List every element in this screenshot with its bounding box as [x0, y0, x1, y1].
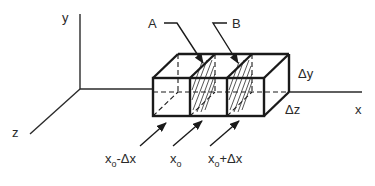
- plane-a-leader: [164, 23, 203, 63]
- label-x0-plus-dx: xo+Δx: [208, 151, 243, 169]
- hidden-edges: [153, 54, 289, 116]
- label-x0: xo: [170, 151, 182, 169]
- position-arrows: [140, 121, 239, 146]
- y-axis-label: y: [62, 10, 69, 25]
- plane-b-label: B: [232, 16, 241, 31]
- label-x0-minus-dx: xo-Δx: [105, 151, 137, 169]
- plane-a-label: A: [148, 16, 157, 31]
- delta-z-label: Δz: [285, 102, 300, 117]
- control-volume-diagram: y x z: [0, 0, 375, 186]
- z-axis-label: z: [12, 125, 19, 140]
- z-axis: [30, 89, 80, 134]
- delta-y-label: Δy: [298, 66, 314, 81]
- top-right-edge: [264, 54, 289, 78]
- arrow-x0-plus: [210, 121, 239, 146]
- plane-b-hatching: [229, 60, 252, 112]
- plane-labels: A B: [148, 16, 241, 63]
- position-labels: xo-Δx xo xo+Δx: [105, 151, 243, 169]
- plane-a-hatching: [192, 60, 215, 112]
- arrow-x0: [173, 121, 202, 146]
- control-volume-box: [153, 54, 289, 116]
- arrow-x0-minus: [140, 123, 166, 146]
- x-axis-label: x: [355, 102, 362, 117]
- top-left-edge: [153, 54, 178, 78]
